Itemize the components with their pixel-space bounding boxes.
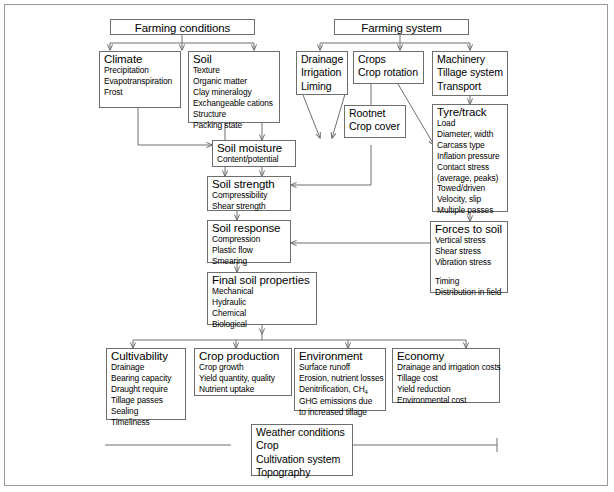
node-crop-production[interactable]: Crop production Crop growth Yield quanti… — [194, 348, 292, 396]
soil-strength-item-1: Shear strength — [212, 201, 286, 212]
soil-response-title: Soil response — [212, 222, 286, 234]
soil-moisture-title: Soil moisture — [217, 142, 291, 154]
forces-to-soil-item-0: Vertical stress — [435, 235, 503, 246]
tyre-track-item-1: Diameter, width — [437, 129, 503, 140]
forces-to-soil-item-1: Shear stress — [435, 246, 503, 257]
crop-production-item-0: Crop growth — [199, 362, 287, 373]
tyre-track-item-3: Inflation pressure — [437, 151, 503, 162]
node-machinery[interactable]: Machinery Tillage system Transport — [432, 51, 508, 96]
weather-line-0: Weather conditions — [256, 426, 348, 439]
soil-item-4: Structure — [193, 109, 275, 120]
forces-to-soil-item-4: Timing — [435, 276, 503, 287]
environment-item-2: Denitrification, CH4 — [299, 384, 381, 396]
node-soil[interactable]: Soil Texture Organic matter Clay mineral… — [188, 51, 280, 123]
tyre-track-item-8: Multiple passes — [437, 205, 503, 216]
node-forces-to-soil[interactable]: Forces to soil Vertical stress Shear str… — [430, 221, 508, 293]
node-crops[interactable]: Crops Crop rotation — [353, 51, 424, 84]
drainage-line-0: Drainage — [301, 53, 343, 66]
node-economy[interactable]: Economy Drainage and irrigation costs Ti… — [392, 348, 500, 403]
economy-item-2: Yield reduction — [397, 384, 495, 395]
final-soil-properties-item-0: Mechanical — [212, 286, 312, 297]
cultivability-title: Cultivability — [111, 350, 181, 362]
tyre-track-title: Tyre/track — [437, 106, 503, 118]
tyre-track-item-0: Load — [437, 118, 503, 129]
final-soil-properties-item-1: Hydraulic — [212, 297, 312, 308]
environment-item-1: Erosion, nutrient losses — [299, 373, 381, 384]
node-final-soil-properties[interactable]: Final soil properties Mechanical Hydraul… — [207, 272, 317, 325]
soil-response-item-0: Compression — [212, 234, 286, 245]
tyre-track-item-5: (average, peaks) — [437, 173, 503, 184]
final-soil-properties-item-2: Chemical — [212, 308, 312, 319]
economy-item-3: Environmental cost — [397, 395, 495, 406]
rootnet-line-0: Rootnet — [349, 107, 401, 120]
weather-line-2: Cultivation system — [256, 453, 348, 466]
drainage-line-2: Liming — [301, 80, 343, 93]
climate-item-2: Frost — [104, 87, 176, 98]
crop-production-item-2: Nutrient uptake — [199, 384, 287, 395]
node-drainage[interactable]: Drainage Irrigation Liming — [296, 51, 348, 95]
crop-production-title: Crop production — [199, 350, 287, 362]
node-environment[interactable]: Environment Surface runoff Erosion, nutr… — [294, 348, 386, 411]
rootnet-line-1: Crop cover — [349, 120, 401, 133]
cultivability-item-5: Timeliness — [111, 417, 181, 428]
climate-item-0: Precipitation — [104, 65, 176, 76]
cultivability-item-0: Drainage — [111, 362, 181, 373]
climate-item-1: Evapotranspiration — [104, 76, 176, 87]
soil-title: Soil — [193, 53, 275, 65]
cultivability-item-1: Bearing capacity — [111, 373, 181, 384]
economy-title: Economy — [397, 350, 495, 362]
climate-title: Climate — [104, 53, 176, 65]
cultivability-item-3: Tillage passes — [111, 395, 181, 406]
node-farming-system[interactable]: Farming system — [334, 19, 469, 35]
node-weather-conditions[interactable]: Weather conditions Crop Cultivation syst… — [251, 424, 353, 476]
crops-line-0: Crops — [358, 53, 419, 66]
tyre-track-item-6: Towed/driven — [437, 183, 503, 194]
soil-response-item-1: Plastic flow — [212, 245, 286, 256]
cultivability-item-4: Sealing — [111, 406, 181, 417]
soil-strength-title: Soil strength — [212, 178, 286, 190]
diagram-canvas: Farming conditions Farming system Climat… — [0, 0, 614, 492]
node-rootnet[interactable]: Rootnet Crop cover — [344, 105, 406, 138]
node-climate[interactable]: Climate Precipitation Evapotranspiration… — [99, 51, 181, 108]
node-soil-strength[interactable]: Soil strength Compressibility Shear stre… — [207, 176, 291, 211]
tyre-track-item-4: Contact stress — [437, 162, 503, 173]
economy-item-0: Drainage and irrigation costs — [397, 362, 495, 373]
final-soil-properties-title: Final soil properties — [212, 274, 312, 286]
farming-system-title: Farming system — [339, 22, 464, 34]
crop-production-item-1: Yield quantity, quality — [199, 373, 287, 384]
soil-item-1: Organic matter — [193, 76, 275, 87]
environment-item-4: to increased tillage — [299, 407, 381, 418]
tyre-track-item-2: Carcass type — [437, 140, 503, 151]
environment-item-3: GHG emissions due — [299, 396, 381, 407]
forces-to-soil-item-5: Distribution in field — [435, 287, 503, 298]
drainage-line-1: Irrigation — [301, 66, 343, 79]
cultivability-item-2: Draught require — [111, 384, 181, 395]
node-soil-moisture[interactable]: Soil moisture Content/potential — [212, 140, 296, 167]
machinery-line-2: Transport — [437, 80, 503, 93]
machinery-line-0: Machinery — [437, 53, 503, 66]
node-soil-response[interactable]: Soil response Compression Plastic flow S… — [207, 220, 291, 263]
crops-line-1: Crop rotation — [358, 66, 419, 79]
soil-item-5: Packing state — [193, 120, 275, 131]
soil-item-3: Exchangeable cations — [193, 98, 275, 109]
economy-item-1: Tillage cost — [397, 373, 495, 384]
final-soil-properties-item-3: Biological — [212, 319, 312, 330]
weather-line-1: Crop — [256, 439, 348, 452]
node-tyre-track[interactable]: Tyre/track Load Diameter, width Carcass … — [432, 104, 508, 212]
forces-to-soil-spacer — [435, 268, 503, 276]
soil-response-item-2: Smearing — [212, 256, 286, 267]
tyre-track-item-7: Velocity, slip — [437, 194, 503, 205]
soil-moisture-item-0: Content/potential — [217, 154, 291, 165]
weather-line-3: Topography — [256, 466, 348, 479]
soil-item-0: Texture — [193, 65, 275, 76]
forces-to-soil-item-2: Vibration stress — [435, 257, 503, 268]
farming-conditions-title: Farming conditions — [115, 22, 250, 34]
machinery-line-1: Tillage system — [437, 66, 503, 79]
node-farming-conditions[interactable]: Farming conditions — [110, 19, 255, 35]
soil-strength-item-0: Compressibility — [212, 190, 286, 201]
forces-to-soil-title: Forces to soil — [435, 223, 503, 235]
node-cultivability[interactable]: Cultivability Drainage Bearing capacity … — [106, 348, 186, 420]
environment-item-0: Surface runoff — [299, 362, 381, 373]
soil-item-2: Clay mineralogy — [193, 87, 275, 98]
environment-title: Environment — [299, 350, 381, 362]
